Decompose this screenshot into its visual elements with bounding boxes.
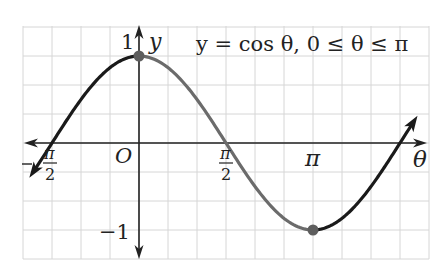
svg-text:π: π [43,144,55,163]
y-axis-label: y [148,29,162,54]
origin-label: O [115,144,132,168]
curve-right-segment [313,123,413,230]
labels: y = cos θ, 0 ≤ θ ≤ π 1 y O −1 θ π π 2 π … [22,29,427,244]
point-min [308,225,319,236]
svg-text:2: 2 [221,165,231,184]
point-max [134,51,145,62]
curve-right-arrow-icon [404,116,417,132]
svg-text:π: π [219,144,231,163]
cosine-chart: y = cos θ, 0 ≤ θ ≤ π 1 y O −1 θ π π 2 π … [0,0,445,261]
x-axis-label: θ [413,146,427,172]
svg-text:2: 2 [45,165,55,184]
x-tick-pi: π [304,145,321,171]
y-tick-1: 1 [121,30,134,54]
y-tick-neg1: −1 [99,220,130,244]
equation-label: y = cos θ, 0 ≤ θ ≤ π [195,32,409,56]
